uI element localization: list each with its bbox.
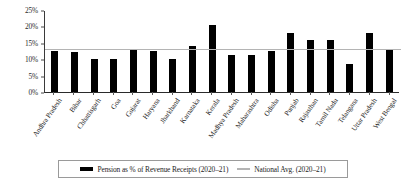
bar-kerala: [209, 25, 216, 92]
bar-andhra-pradesh: [51, 51, 58, 91]
plot-area: [44, 11, 399, 93]
bar-slot: [340, 11, 360, 92]
x-axis-label-karnataka: Karnataka: [178, 97, 201, 125]
bar-odisha: [268, 51, 275, 91]
pension-revenue-bar-chart: 25%20%15%10%5%0% Andhra PradeshBiharChha…: [0, 0, 404, 186]
bar-slot: [202, 11, 222, 92]
bar-chhattisgarh: [91, 59, 98, 91]
bar-gujarat: [130, 50, 137, 91]
bar-karnataka: [189, 46, 196, 92]
bar-bihar: [71, 52, 78, 91]
chart-legend: Pension as % of Revenue Receipts (2020–2…: [58, 160, 348, 178]
x-axis-label-goa: Goa: [109, 97, 122, 111]
bar-haryana: [150, 51, 157, 91]
x-axis-label-bihar: Bihar: [68, 97, 83, 114]
y-axis-tick-label: 0%: [28, 89, 38, 97]
bar-slot: [163, 11, 183, 92]
x-axis-label-kerala: Kerala: [204, 97, 221, 117]
x-axis-labels: Andhra PradeshBiharChhattisgarhGoaGujara…: [44, 95, 399, 153]
legend-item-national-average: National Avg. (2020–21): [237, 165, 325, 174]
legend-label-national-average: National Avg. (2020–21): [254, 165, 325, 174]
x-axis-label-punjab: Punjab: [282, 97, 300, 117]
bar-slot: [65, 11, 85, 92]
y-axis-tick-label: 15%: [25, 40, 38, 48]
bar-slot: [222, 11, 242, 92]
bar-slot: [124, 11, 144, 92]
bar-slot: [379, 11, 399, 92]
bar-telangana: [346, 64, 353, 91]
bar-slot: [281, 11, 301, 92]
bar-goa: [110, 59, 117, 92]
bar-uttar-pradesh: [366, 33, 373, 92]
legend-label-pension: Pension as % of Revenue Receipts (2020–2…: [97, 165, 228, 174]
bar-slot: [261, 11, 281, 92]
bar-slot: [183, 11, 203, 92]
bar-swatch-icon: [80, 167, 93, 172]
y-axis-tick-label: 10%: [25, 56, 38, 64]
line-swatch-icon: [237, 168, 250, 170]
x-axis-label-gujarat: Gujarat: [124, 97, 143, 119]
bar-madhya-pradesh: [228, 55, 235, 91]
bar-series: [45, 11, 399, 92]
y-axis-tick-label: 25%: [25, 7, 38, 15]
national-average-line: [45, 49, 401, 51]
x-axis-label-andhra-pradesh: Andhra Pradesh: [31, 97, 63, 138]
bar-west-bengal: [386, 49, 393, 91]
bar-slot: [320, 11, 340, 92]
bar-maharashtra: [248, 55, 255, 91]
bar-jharkhand: [169, 59, 176, 91]
bar-slot: [301, 11, 321, 92]
bar-slot: [143, 11, 163, 92]
x-axis-label-haryana: Haryana: [142, 97, 162, 121]
bar-slot: [45, 11, 65, 92]
bar-slot: [360, 11, 380, 92]
x-axis-label-odisha: Odisha: [262, 97, 280, 118]
bar-slot: [242, 11, 262, 92]
y-axis-tick-label: 20%: [25, 23, 38, 31]
bar-slot: [84, 11, 104, 92]
legend-item-pension: Pension as % of Revenue Receipts (2020–2…: [80, 165, 228, 174]
y-axis-tick-label: 5%: [28, 73, 38, 81]
bar-punjab: [287, 33, 294, 92]
bar-slot: [104, 11, 124, 92]
y-axis: 25%20%15%10%5%0%: [0, 0, 44, 93]
